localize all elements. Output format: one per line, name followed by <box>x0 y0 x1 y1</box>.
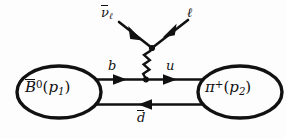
u-quark-label: u <box>166 59 174 72</box>
dbar-quark-label: d <box>137 111 145 124</box>
initial-meson-symbol: B <box>25 80 36 95</box>
antineutrino-subscript: ℓ <box>109 11 113 21</box>
antineutrino-leg <box>119 22 152 48</box>
antineutrino-symbol: ν <box>101 6 109 19</box>
dbar-arrowhead <box>138 99 152 109</box>
initial-momentum-symbol: p <box>48 78 58 96</box>
initial-meson-label: B0(p1) <box>25 80 70 97</box>
feynman-diagram-figure: B0(p1) π+(p2) b u d νℓ ℓ <box>0 0 286 139</box>
final-meson-symbol: π <box>205 78 215 96</box>
final-momentum-close: ) <box>245 78 251 96</box>
initial-momentum-close: ) <box>64 78 70 96</box>
final-meson-label: π+(p2) <box>205 80 251 97</box>
antineutrino-arrowhead <box>128 26 142 40</box>
w-boson-propagator <box>143 48 152 79</box>
w-boson-wave-stroke <box>143 48 152 79</box>
quark-weak-vertex <box>143 77 149 83</box>
b-quark-label: b <box>108 59 116 72</box>
b-quark-arrowhead <box>113 74 127 84</box>
charged-lepton-leg <box>152 20 188 48</box>
top-quark-line <box>88 74 212 84</box>
bottom-quark-line <box>88 99 212 109</box>
antineutrino-label: νℓ <box>101 6 113 21</box>
final-momentum-symbol: p <box>229 78 239 96</box>
charged-lepton-label: ℓ <box>187 6 192 19</box>
u-quark-arrowhead <box>163 74 177 84</box>
charged-lepton-arrowhead <box>163 24 177 38</box>
dbar-symbol: d <box>137 111 145 124</box>
